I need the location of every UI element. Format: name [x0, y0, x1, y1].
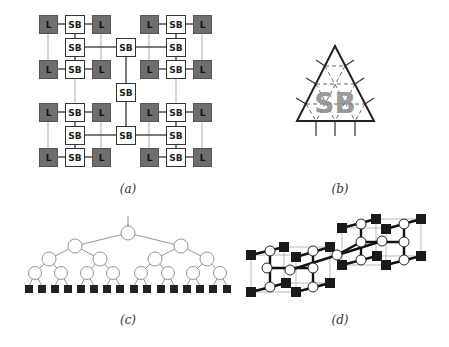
- l-block: L: [193, 103, 212, 122]
- l-block: L: [140, 148, 159, 167]
- l-block: L: [193, 15, 212, 34]
- l-block: L: [140, 60, 159, 79]
- panel-b-triangle: SB: [296, 46, 374, 136]
- sb-block-center: SB: [116, 126, 136, 145]
- sb-block-center: SB: [116, 83, 136, 102]
- l-block: L: [39, 60, 58, 79]
- sb-block: SB: [65, 15, 85, 34]
- l-block: L: [193, 60, 212, 79]
- l-block: L: [193, 148, 212, 167]
- sb-block: SB: [166, 103, 186, 122]
- l-block: L: [39, 15, 58, 34]
- panel-d-cubes: [246, 214, 426, 297]
- sb-block: SB: [166, 15, 186, 34]
- caption-b: (b): [331, 182, 348, 196]
- sb-block: SB: [166, 148, 186, 167]
- sb-block: SB: [166, 38, 186, 57]
- triangle-sb-text: SB: [314, 87, 356, 120]
- caption-d: (d): [331, 313, 348, 327]
- l-block: L: [140, 15, 159, 34]
- l-block: L: [92, 15, 111, 34]
- l-block: L: [92, 60, 111, 79]
- l-block: L: [92, 103, 111, 122]
- sb-block: SB: [65, 103, 85, 122]
- caption-c: (c): [120, 313, 136, 327]
- l-block: L: [39, 103, 58, 122]
- sb-block: SB: [166, 126, 186, 145]
- sb-block: SB: [65, 126, 85, 145]
- sb-block: SB: [166, 60, 186, 79]
- tree-nodes: [29, 226, 227, 280]
- caption-a: (a): [120, 182, 137, 196]
- l-block: L: [39, 148, 58, 167]
- sb-block: SB: [65, 148, 85, 167]
- sb-block-center: SB: [116, 38, 136, 57]
- sb-block: SB: [65, 38, 85, 57]
- l-block: L: [92, 148, 111, 167]
- tree-leaves: [25, 285, 231, 293]
- sb-block: SB: [65, 60, 85, 79]
- l-block: L: [140, 103, 159, 122]
